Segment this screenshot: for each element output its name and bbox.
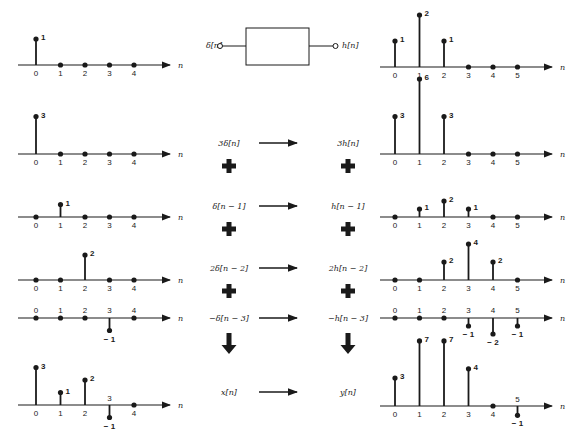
svg-text:2: 2 [442, 284, 447, 293]
stem-plot-0: n011234 [18, 33, 183, 78]
svg-text:4: 4 [491, 221, 496, 230]
svg-text:1: 1 [58, 284, 63, 293]
axis-label: n [560, 63, 565, 72]
sample-dot [490, 151, 495, 156]
sample-dot [466, 323, 471, 328]
svg-text:5: 5 [515, 306, 520, 315]
output-expression: 2h[n − 2] [328, 264, 368, 273]
axis-label: n [178, 150, 183, 159]
stem-plot-7: n012234425 [380, 238, 565, 293]
svg-text:2: 2 [442, 306, 447, 315]
sample-dot [82, 252, 87, 257]
axis-label: n [560, 150, 565, 159]
svg-text:4: 4 [132, 284, 137, 293]
svg-text:1: 1 [66, 199, 71, 208]
svg-text:− 2: − 2 [487, 338, 499, 347]
sample-dot [392, 38, 397, 43]
axis-label: n [560, 314, 565, 323]
svg-text:1: 1 [58, 158, 63, 167]
sample-dot [107, 328, 112, 333]
sample-dot [131, 214, 136, 219]
row-term-1: 3δ[n]3h[n] [218, 139, 359, 173]
svg-text:0: 0 [34, 69, 39, 78]
svg-text:2: 2 [442, 158, 447, 167]
sample-dot [466, 241, 471, 246]
sample-dot [441, 315, 446, 320]
svg-text:5: 5 [515, 71, 520, 80]
svg-text:3: 3 [466, 71, 471, 80]
svg-text:− 1: − 1 [104, 335, 116, 344]
svg-text:0: 0 [34, 284, 39, 293]
svg-text:2: 2 [83, 69, 88, 78]
svg-text:4: 4 [132, 69, 137, 78]
sample-dot [441, 38, 446, 43]
plus-icon [222, 222, 236, 236]
svg-text:2: 2 [425, 9, 430, 18]
sample-dot [417, 206, 422, 211]
svg-text:2: 2 [442, 410, 447, 419]
sample-dot [417, 315, 422, 320]
plus-icon [341, 159, 355, 173]
down-arrow-icon [341, 333, 356, 354]
axis-label: n [560, 402, 565, 411]
svg-text:− 1: − 1 [463, 330, 475, 339]
svg-text:2: 2 [449, 195, 454, 204]
stem-plot-2: n031234 [18, 111, 183, 168]
sample-dot [131, 277, 136, 282]
input-expression: x[n] [221, 388, 238, 397]
svg-text:1: 1 [66, 387, 71, 396]
sample-dot [131, 402, 136, 407]
svg-text:4: 4 [474, 238, 479, 247]
sample-dot [58, 277, 63, 282]
sample-dot [515, 413, 520, 418]
sample-dot [58, 202, 63, 207]
svg-text:2: 2 [90, 374, 95, 383]
sample-dot [392, 376, 397, 381]
svg-text:2: 2 [449, 256, 454, 265]
svg-text:1: 1 [417, 158, 422, 167]
svg-text:1: 1 [417, 410, 422, 419]
svg-text:4: 4 [132, 158, 137, 167]
sample-dot [392, 277, 397, 282]
axis-label: n [560, 213, 565, 222]
svg-text:3: 3 [107, 394, 112, 403]
input-terminal-icon [218, 44, 223, 49]
row-term-3: 2δ[n − 2]2h[n − 2] [209, 264, 368, 298]
svg-text:0: 0 [34, 409, 39, 418]
svg-text:2: 2 [83, 306, 88, 315]
output-expression: h[n − 1] [331, 202, 365, 211]
plus-icon [222, 284, 236, 298]
svg-text:4: 4 [474, 363, 479, 372]
sample-dot [490, 214, 495, 219]
svg-text:1: 1 [449, 35, 454, 44]
svg-text:2: 2 [90, 249, 95, 258]
input-expression: 3δ[n] [218, 139, 240, 148]
svg-text:3: 3 [400, 111, 405, 120]
svg-text:2: 2 [83, 221, 88, 230]
sample-dot [33, 277, 38, 282]
sample-dot [82, 151, 87, 156]
sample-dot [417, 76, 422, 81]
svg-text:− 1: − 1 [104, 422, 116, 431]
svg-text:4: 4 [491, 284, 496, 293]
svg-text:0: 0 [393, 306, 398, 315]
svg-text:1: 1 [58, 221, 63, 230]
svg-text:4: 4 [491, 158, 496, 167]
sample-dot [33, 214, 38, 219]
sample-dot [131, 151, 136, 156]
sample-dot [33, 315, 38, 320]
svg-text:7: 7 [449, 335, 454, 344]
sample-dot [107, 415, 112, 420]
svg-text:4: 4 [132, 306, 137, 315]
sample-dot [107, 151, 112, 156]
svg-text:3: 3 [466, 306, 471, 315]
svg-text:0: 0 [34, 158, 39, 167]
svg-text:0: 0 [34, 306, 39, 315]
axis-label: n [178, 314, 183, 323]
input-expression: 2δ[n − 2] [209, 264, 249, 273]
svg-text:5: 5 [515, 158, 520, 167]
sample-dot [58, 151, 63, 156]
svg-text:3: 3 [41, 111, 46, 120]
svg-text:4: 4 [491, 71, 496, 80]
sample-dot [490, 259, 495, 264]
